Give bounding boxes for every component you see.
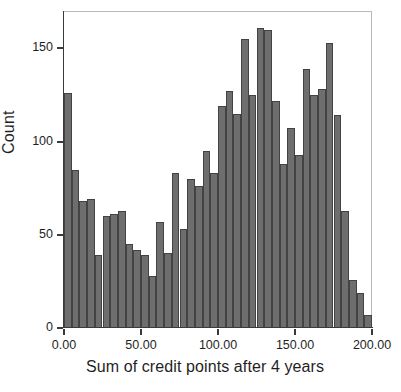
- histogram-bar: [341, 211, 349, 328]
- histogram-bar: [303, 69, 311, 328]
- histogram-bar: [64, 93, 72, 328]
- x-tick-mark: [140, 329, 142, 335]
- y-tick-label: 50: [19, 227, 53, 241]
- x-tick-mark: [217, 329, 219, 335]
- y-tick-mark: [57, 234, 63, 236]
- histogram-bar: [95, 255, 103, 328]
- x-tick-mark: [294, 329, 296, 335]
- histogram-bar: [164, 253, 172, 328]
- histogram-bar: [295, 155, 303, 328]
- histogram-chart: Count 050100150 0.0050.00100.00150.00200…: [0, 0, 401, 392]
- histogram-bar: [110, 214, 118, 328]
- histogram-bar: [79, 201, 87, 328]
- x-tick-label: 200.00: [344, 338, 400, 352]
- histogram-bar: [180, 229, 188, 328]
- histogram-bar: [334, 115, 342, 328]
- histogram-bar: [310, 95, 318, 328]
- histogram-bar: [349, 280, 357, 328]
- histogram-bar: [149, 276, 157, 328]
- bars-layer: [64, 11, 372, 328]
- histogram-bar: [233, 114, 241, 328]
- y-axis-line: [63, 11, 64, 328]
- histogram-bar: [103, 216, 111, 328]
- histogram-bar: [133, 250, 141, 328]
- x-axis-title: Sum of credit points after 4 years: [40, 358, 370, 376]
- histogram-bar: [272, 101, 280, 328]
- x-tick-label: 150.00: [267, 338, 323, 352]
- y-tick-mark: [57, 141, 63, 143]
- histogram-bar: [141, 255, 149, 328]
- histogram-bar: [257, 28, 265, 328]
- histogram-bar: [241, 39, 249, 328]
- histogram-bar: [87, 199, 95, 328]
- histogram-bar: [326, 43, 334, 328]
- y-tick-label: 150: [19, 40, 53, 54]
- x-axis-line: [63, 327, 373, 328]
- histogram-bar: [249, 95, 257, 328]
- x-tick-label: 100.00: [190, 338, 246, 352]
- histogram-bar: [287, 128, 295, 328]
- y-tick-label: 0: [19, 320, 53, 334]
- x-tick-mark: [371, 329, 373, 335]
- histogram-bar: [210, 173, 218, 328]
- x-tick-mark: [63, 329, 65, 335]
- histogram-bar: [187, 179, 195, 328]
- histogram-bar: [126, 244, 134, 328]
- histogram-bar: [72, 170, 80, 329]
- histogram-bar: [195, 186, 203, 328]
- histogram-bar: [264, 30, 272, 328]
- x-tick-label: 0.00: [36, 338, 92, 352]
- histogram-bar: [226, 91, 234, 328]
- y-tick-label: 100: [19, 134, 53, 148]
- x-tick-label: 50.00: [113, 338, 169, 352]
- histogram-bar: [280, 164, 288, 328]
- histogram-bar: [172, 173, 180, 328]
- y-tick-mark: [57, 47, 63, 49]
- histogram-bar: [118, 211, 126, 328]
- histogram-bar: [156, 222, 164, 328]
- histogram-bar: [218, 106, 226, 328]
- histogram-bar: [318, 89, 326, 328]
- histogram-bar: [357, 293, 365, 328]
- histogram-bar: [203, 151, 211, 328]
